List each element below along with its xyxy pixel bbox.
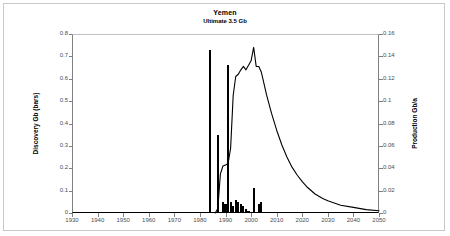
production-curve [72, 34, 379, 213]
y-tick-left: 0.7 [42, 52, 68, 58]
y-tick-mark-right [379, 56, 383, 57]
x-tick-mark [353, 213, 354, 217]
x-tick-mark [328, 213, 329, 217]
y-axis-right-label: Production Gb/a [408, 34, 420, 213]
chart-frame: Yemen Ultimate 3.5 Gb Discovery Gb (bars… [3, 3, 445, 231]
y-tick-mark-right [379, 79, 383, 80]
y-tick-left: 0.6 [42, 75, 68, 81]
y-tick-left: 0.1 [42, 187, 68, 193]
y-tick-right: 0.04 [383, 164, 409, 170]
y-tick-right: 0.12 [383, 75, 409, 81]
x-tick-mark [226, 213, 227, 217]
y-tick-right: 0.02 [383, 187, 409, 193]
y-tick-mark-right [379, 34, 383, 35]
y-tick-mark-right [379, 101, 383, 102]
y-tick-mark-right [379, 191, 383, 192]
y-tick-right: 0.16 [383, 30, 409, 36]
chart-title: Yemen [4, 9, 446, 16]
x-tick-mark [123, 213, 124, 217]
chart-subtitle: Ultimate 3.5 Gb [4, 18, 446, 24]
y-tick-right: 0.14 [383, 52, 409, 58]
x-tick-mark [379, 213, 380, 217]
y-tick-left: 0.3 [42, 142, 68, 148]
x-tick-mark [149, 213, 150, 217]
plot-area: 00.10.20.30.40.50.60.70.8 00.020.040.060… [72, 34, 379, 213]
y-tick-right: 0.1 [383, 97, 409, 103]
y-tick-mark-right [379, 124, 383, 125]
x-tick-mark [200, 213, 201, 217]
x-tick-mark [98, 213, 99, 217]
x-tick-mark [302, 213, 303, 217]
y-tick-right: 0.08 [383, 120, 409, 126]
y-axis-left-label-text: Discovery Gb (bars) [33, 93, 40, 155]
y-tick-right: 0.06 [383, 142, 409, 148]
x-tick-mark [277, 213, 278, 217]
y-tick-left: 0.4 [42, 120, 68, 126]
y-tick-right: 0 [383, 209, 409, 215]
x-tick-mark [72, 213, 73, 217]
y-axis-left-label: Discovery Gb (bars) [30, 34, 42, 213]
x-tick-mark [251, 213, 252, 217]
y-tick-left: 0.2 [42, 164, 68, 170]
y-tick-mark-right [379, 146, 383, 147]
x-tick-label: 2050 [359, 217, 399, 223]
y-axis-right-label-text: Production Gb/a [411, 98, 418, 149]
y-tick-left: 0.5 [42, 97, 68, 103]
y-tick-left: 0.8 [42, 30, 68, 36]
x-tick-mark [174, 213, 175, 217]
y-tick-mark-right [379, 168, 383, 169]
y-tick-left: 0 [42, 209, 68, 215]
